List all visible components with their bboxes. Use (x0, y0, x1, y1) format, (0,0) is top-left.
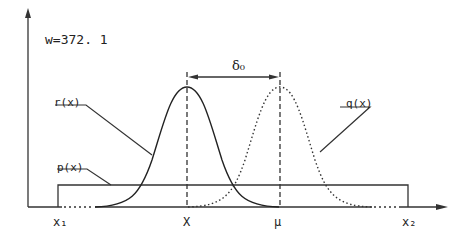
p-curve (58, 185, 408, 207)
p-label: p(x) (57, 162, 84, 173)
x2-tick-label: x₂ (402, 216, 416, 228)
w-annotation: w=372. 1 (45, 33, 108, 46)
x-axis-arrow-icon (436, 204, 448, 210)
delta-arrow-right-icon (269, 75, 279, 80)
delta-arrow-left-icon (188, 75, 198, 80)
delta-label: δ₀ (232, 59, 245, 72)
q-label: q(x) (346, 98, 373, 109)
y-axis-arrow-icon (25, 8, 31, 18)
r-leader (55, 105, 152, 155)
q-leader (320, 107, 370, 152)
mu-tick-label: μ (274, 216, 281, 228)
r-label: r(x) (54, 97, 81, 108)
X-tick-label: X (183, 216, 190, 228)
x1-tick-label: x₁ (53, 216, 67, 228)
